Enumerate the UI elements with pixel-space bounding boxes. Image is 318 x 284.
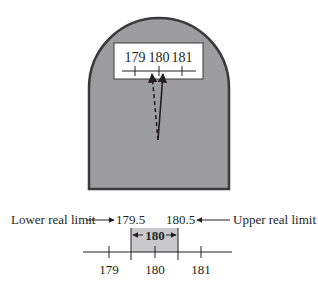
lower-limit-value: 179.5 [116,212,145,227]
tick-label-179: 179 [99,262,119,277]
diagram: 179 180 181 Lower real limit 179.5 180.5… [0,0,318,284]
lower-limit-label: Lower real limit [11,212,96,227]
tick-label-180: 180 [145,262,165,277]
window-label-181: 181 [172,50,193,65]
tick-label-181: 181 [191,262,211,277]
window-label-180: 180 [149,50,170,65]
interval-label: 180 [145,228,165,243]
upper-limit-value: 180.5 [166,212,195,227]
window-label-179: 179 [125,50,146,65]
scale-window: 179 180 181 [114,43,203,79]
upper-limit-label: Upper real limit [233,212,316,227]
